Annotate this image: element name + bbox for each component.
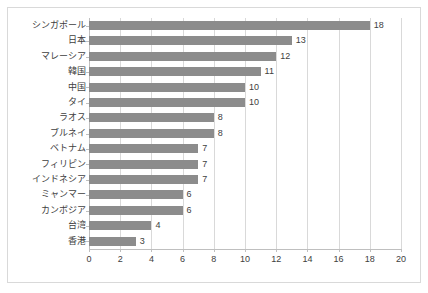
bar [89,52,276,61]
bar [89,67,261,76]
x-axis-tick [276,249,277,252]
bar [89,83,245,92]
bar-row: 10 [89,80,401,95]
bar-row: 7 [89,141,401,156]
x-axis-tick [307,249,308,252]
x-axis-tick [89,249,90,252]
bar-row: 7 [89,157,401,172]
category-label: 香港 [10,234,86,249]
x-axis-tick-label: 4 [149,253,154,266]
x-axis-tick-label: 10 [240,253,250,266]
bar [89,144,198,153]
bar-row: 10 [89,95,401,110]
category-label: ベトナム [10,141,86,156]
x-axis-tick [245,249,246,252]
bar [89,21,370,30]
x-axis-tick [183,249,184,252]
category-label: マレーシア [10,49,86,64]
bar [89,129,214,138]
x-axis-tick [370,249,371,252]
x-axis-tick [214,249,215,252]
bar-value-label: 4 [155,219,160,232]
category-label: ラオス [10,110,86,125]
x-axis-tick-label: 8 [211,253,216,266]
bar-value-label: 10 [249,81,259,94]
bar [89,237,136,246]
bar-value-label: 6 [187,204,192,217]
category-label: 中国 [10,80,86,95]
x-axis-tick-label: 16 [334,253,344,266]
category-label: フィリピン [10,157,86,172]
x-axis-tick [401,249,402,252]
bar [89,175,198,184]
bar-value-label: 13 [296,34,306,47]
bar-value-label: 18 [374,19,384,32]
x-axis-tick [120,249,121,252]
bar-row: 18 [89,18,401,33]
bar-row: 8 [89,110,401,125]
bar [89,190,183,199]
bar-value-label: 12 [280,50,290,63]
bar-row: 6 [89,187,401,202]
category-axis: シンガポール日本マレーシア韓国中国タイラオスブルネイベトナムフィリピンインドネシ… [8,18,86,249]
bar-row: 13 [89,33,401,48]
x-axis-tick-label: 12 [271,253,281,266]
bar-row: 8 [89,126,401,141]
category-label: カンボジア [10,203,86,218]
category-label: インドネシア [10,172,86,187]
category-label: 台湾 [10,218,86,233]
bar-row: 6 [89,203,401,218]
bar-row: 3 [89,234,401,249]
bar-value-label: 7 [202,142,207,155]
bar [89,113,214,122]
bar [89,160,198,169]
category-label: タイ [10,95,86,110]
bar [89,98,245,107]
gridline [401,18,402,249]
bar-value-label: 8 [218,111,223,124]
bar-value-label: 8 [218,127,223,140]
bar [89,36,292,45]
bar-row: 11 [89,64,401,79]
x-axis-tick-label: 14 [302,253,312,266]
bar-value-label: 7 [202,158,207,171]
x-axis-tick-labels: 02468101214161820 [89,253,401,269]
category-label: 韓国 [10,64,86,79]
plot-area: 181312111010887776643 [89,18,401,249]
x-axis-tick [151,249,152,252]
bar-value-label: 6 [187,188,192,201]
chart-frame: シンガポール日本マレーシア韓国中国タイラオスブルネイベトナムフィリピンインドネシ… [7,7,421,283]
bar-row: 12 [89,49,401,64]
bar-value-label: 10 [249,96,259,109]
bar [89,221,151,230]
x-axis-tick-label: 2 [118,253,123,266]
bar-row: 4 [89,218,401,233]
bar-row: 7 [89,172,401,187]
bar-value-label: 11 [265,65,274,78]
category-label: 日本 [10,33,86,48]
x-axis-tick-label: 20 [396,253,406,266]
x-axis-tick-label: 0 [86,253,91,266]
bar-value-label: 3 [140,235,145,248]
x-axis-tick [339,249,340,252]
category-label: ブルネイ [10,126,86,141]
x-axis-tick-label: 6 [180,253,185,266]
bar [89,206,183,215]
x-axis-tick-label: 18 [365,253,375,266]
category-label: ミャンマー [10,187,86,202]
category-label: シンガポール [10,18,86,33]
bar-value-label: 7 [202,173,207,186]
